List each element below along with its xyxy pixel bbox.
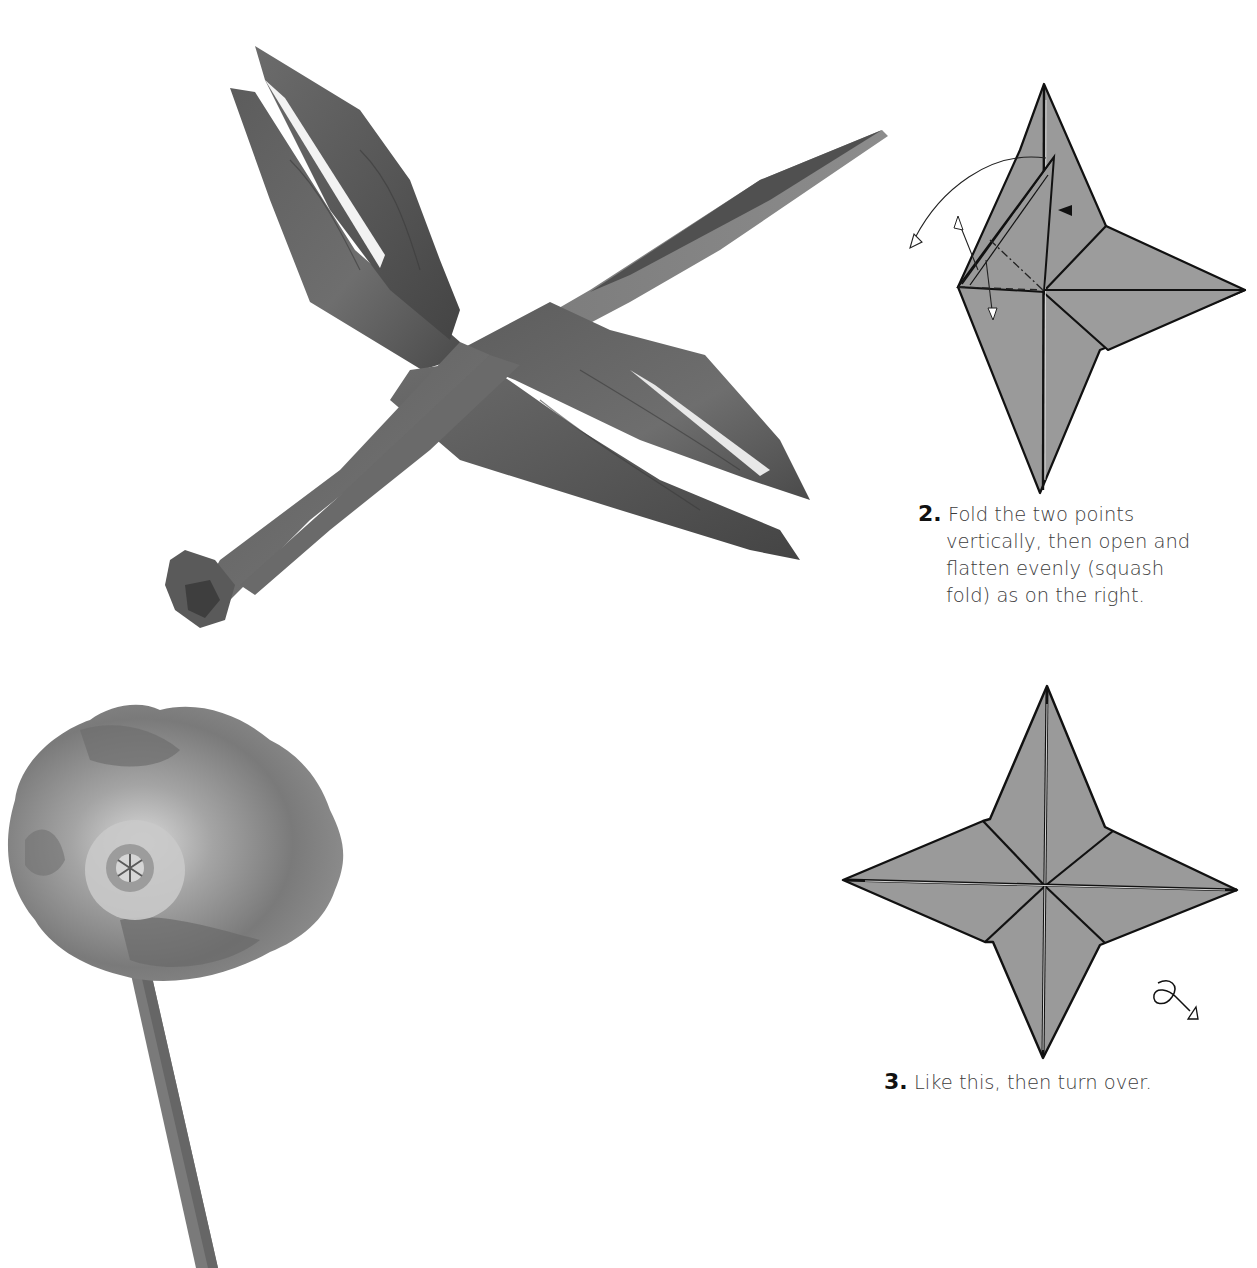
step-3-caption: 3. Like this, then turn over. — [884, 1068, 1244, 1096]
step-2-line-4: fold) as on the right. — [918, 582, 1248, 609]
step-2-line-2: vertically, then open and — [918, 528, 1248, 555]
step-2-diagram — [900, 80, 1255, 500]
step-2-caption: 2. Fold the two points vertically, then … — [918, 500, 1248, 609]
poppy-photo — [0, 690, 360, 1268]
step-2-line-1: 2. Fold the two points — [918, 500, 1248, 528]
step-2-line-3: flatten evenly (squash — [918, 555, 1248, 582]
step-3-diagram — [835, 680, 1255, 1060]
step-2-number: 2. — [918, 501, 942, 526]
page-folio — [2, 1258, 4, 1267]
turn-over-icon — [1150, 975, 1205, 1023]
step-3-number: 3. — [884, 1069, 908, 1094]
step-3-text: Like this, then turn over. — [914, 1071, 1152, 1094]
dragonfly-photo — [160, 40, 890, 630]
